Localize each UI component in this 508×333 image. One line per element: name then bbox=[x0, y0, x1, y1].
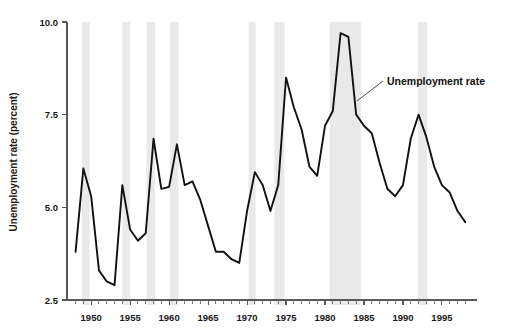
recession-band bbox=[249, 22, 256, 305]
x-tick-label: 1975 bbox=[275, 312, 297, 323]
y-tick-label: 7.5 bbox=[45, 109, 59, 120]
recession-band bbox=[418, 22, 427, 305]
x-tick-label: 1950 bbox=[81, 312, 102, 323]
y-axis-title: Unemployment rate (percent) bbox=[8, 93, 19, 232]
recession-bands-group bbox=[82, 22, 427, 305]
annotation-label-unemployment-rate: Unemployment rate bbox=[387, 75, 485, 87]
recession-band bbox=[122, 22, 130, 305]
annotation-leader-line bbox=[357, 81, 383, 101]
x-tick-label: 1960 bbox=[159, 312, 180, 323]
x-tick-label: 1970 bbox=[236, 312, 257, 323]
x-tick-label: 1955 bbox=[120, 312, 142, 323]
x-tick-label: 1995 bbox=[431, 312, 453, 323]
y-tick-label: 10.0 bbox=[40, 17, 59, 28]
x-tick-label: 1990 bbox=[392, 312, 413, 323]
unemployment-rate-chart: 2.55.07.510.0 19501955196019651970197519… bbox=[0, 0, 508, 333]
y-tick-labels-group: 2.55.07.510.0 bbox=[40, 17, 59, 306]
unemployment-rate-figure: 2.55.07.510.0 19501955196019651970197519… bbox=[0, 0, 508, 333]
data-series-group bbox=[76, 33, 466, 285]
recession-band bbox=[330, 22, 361, 305]
series-line-unemployment-rate bbox=[76, 33, 466, 285]
recession-band bbox=[82, 22, 90, 305]
x-tick-label: 1965 bbox=[198, 312, 220, 323]
x-tick-label: 1985 bbox=[353, 312, 375, 323]
x-tick-label: 1980 bbox=[314, 312, 335, 323]
x-tick-labels-group: 1950195519601965197019751980198519901995 bbox=[81, 312, 454, 323]
y-tick-label: 2.5 bbox=[45, 295, 59, 306]
y-tick-label: 5.0 bbox=[45, 202, 58, 213]
